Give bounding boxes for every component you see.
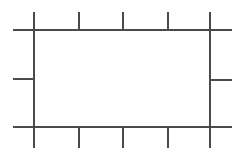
- diagram-canvas: [0, 0, 243, 155]
- diagram-background: [0, 0, 243, 155]
- line-diagram: [0, 0, 243, 155]
